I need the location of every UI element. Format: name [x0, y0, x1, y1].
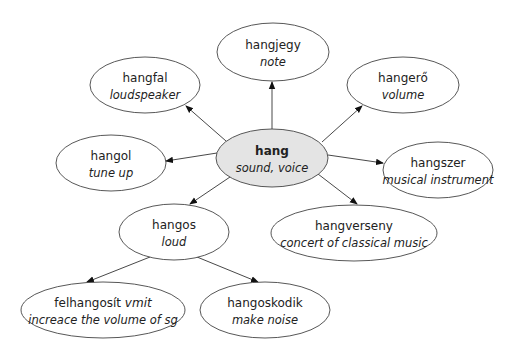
node-word: hangoskodik [227, 296, 303, 310]
node-word: felhangosít vmit [54, 296, 153, 310]
node-hangszer: hangszermusical instrument [383, 142, 494, 198]
node-felhangosit: felhangosít vmitincreace the volume of s… [21, 282, 185, 338]
node-word: hangerő [378, 71, 428, 85]
node-hangverseny: hangversenyconcert of classical music [271, 205, 437, 261]
node-ellipse [200, 282, 330, 338]
node-gloss: loudspeaker [110, 88, 182, 102]
node-word: hangfal [122, 71, 167, 85]
node-gloss: musical instrument [383, 173, 494, 187]
node-gloss: volume [382, 88, 425, 102]
arrow-hang-to-hangszer [328, 155, 383, 163]
arrow-hang-to-hangol [166, 153, 217, 161]
node-word: hangos [152, 218, 196, 232]
node-word: hang [255, 144, 289, 158]
node-ellipse [90, 57, 200, 113]
arrow-hang-to-hangfal [186, 106, 226, 141]
word-family-diagram: hangjegynotehangfalloudspeakerhangerővol… [0, 0, 515, 356]
node-hangol: hangoltune up [56, 135, 166, 191]
node-ellipse [271, 205, 437, 261]
arrow-hangos-to-hangoskodik [197, 257, 258, 282]
nodes: hangjegynotehangfalloudspeakerhangerővol… [21, 23, 494, 338]
node-hangos: hangosloud [119, 204, 229, 260]
node-gloss: make noise [232, 313, 298, 327]
arrow-hang-to-hangos [190, 177, 230, 204]
node-word: hangszer [410, 156, 465, 170]
node-gloss: sound, voice [236, 161, 309, 175]
arrow-hang-to-hangero [322, 106, 362, 142]
node-gloss: concert of classical music [280, 236, 428, 250]
node-ellipse [21, 282, 185, 338]
node-ellipse [217, 23, 329, 81]
node-gloss: increace the volume of sg [28, 313, 178, 327]
node-hangjegy: hangjegynote [217, 23, 329, 81]
node-hangfal: hangfalloudspeaker [90, 57, 200, 113]
node-word: hangol [91, 149, 132, 163]
node-word: hangverseny [315, 219, 393, 233]
node-word: hangjegy [245, 38, 301, 52]
node-hangero: hangerővolume [347, 57, 459, 113]
arrow-hang-to-hangverseny [318, 174, 357, 204]
node-gloss: loud [162, 235, 188, 249]
node-ellipse [56, 135, 166, 191]
node-gloss: tune up [89, 166, 133, 180]
node-word-suffix: vmit [121, 296, 153, 310]
center-node-hang: hangsound, voice [216, 129, 328, 187]
node-hangoskodik: hangoskodikmake noise [200, 282, 330, 338]
node-gloss: note [260, 55, 286, 69]
node-ellipse [347, 57, 459, 113]
node-ellipse [119, 204, 229, 260]
arrow-hangos-to-felhangosit [87, 257, 150, 282]
node-ellipse [216, 129, 328, 187]
node-ellipse [383, 142, 493, 198]
